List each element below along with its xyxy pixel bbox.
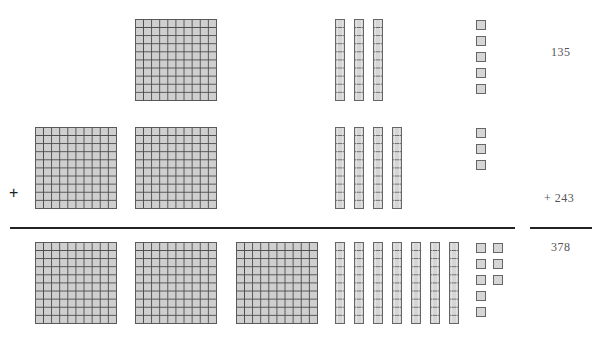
ones-cube [476, 128, 486, 138]
tens-rod [354, 242, 364, 324]
tens-rod [354, 127, 364, 209]
tens-rod [354, 19, 364, 101]
plus-sign: + [9, 184, 18, 202]
ones-cube [476, 68, 486, 78]
hundreds-flat [135, 127, 217, 209]
tens-rod [335, 127, 345, 209]
ones-cube [476, 20, 486, 30]
ones-cube [476, 84, 486, 94]
ones-cube [476, 259, 486, 269]
hundreds-flat [135, 242, 217, 324]
tens-rod [392, 127, 402, 209]
ones-cube [476, 291, 486, 301]
hundreds-flat [135, 19, 217, 101]
ones-cube [493, 259, 503, 269]
tens-rod [411, 242, 421, 324]
tens-rod [373, 19, 383, 101]
ones-cube [476, 144, 486, 154]
tens-rod [430, 242, 440, 324]
tens-rod [373, 242, 383, 324]
ones-cube [476, 307, 486, 317]
hundreds-flat [35, 242, 117, 324]
sum-rule-blocks [10, 227, 515, 229]
sum-rule-numbers [530, 227, 592, 229]
tens-rod [373, 127, 383, 209]
ones-cube [476, 243, 486, 253]
ones-cube [476, 36, 486, 46]
ones-cube [476, 275, 486, 285]
sum-label: 378 [551, 240, 571, 255]
hundreds-flat [35, 127, 117, 209]
ones-cube [476, 52, 486, 62]
ones-cube [493, 243, 503, 253]
addend-1-label: 135 [551, 45, 571, 60]
addend-2-label: + 243 [544, 191, 574, 206]
ones-cube [493, 275, 503, 285]
ones-cube [476, 160, 486, 170]
tens-rod [392, 242, 402, 324]
tens-rod [335, 19, 345, 101]
tens-rod [335, 242, 345, 324]
tens-rod [449, 242, 459, 324]
hundreds-flat [236, 242, 318, 324]
